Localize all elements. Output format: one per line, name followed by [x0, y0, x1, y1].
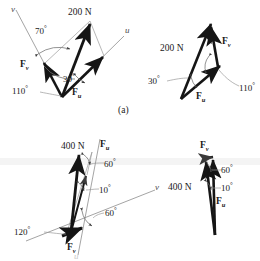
angle-label-30-top-left: 30° — [63, 73, 75, 84]
vector-label-fv-top-left: Fv — [20, 60, 29, 71]
axis-v-line-bl — [26, 190, 155, 241]
leader-110-tr — [219, 70, 239, 86]
vector-label-fu-top-right: Fu — [196, 92, 205, 103]
angle-arc-70-tl — [38, 47, 70, 54]
panel-bottom-left — [26, 139, 155, 255]
component-vector-fv-tl — [44, 63, 62, 97]
vector-label-fu-top-left: Fu — [72, 88, 81, 99]
force-magnitude-400n-bottom-left: 400 N — [61, 142, 85, 152]
angle-label-30-top-right: 30° — [148, 75, 160, 86]
figure-caption-a: (a) — [118, 106, 129, 116]
figure-vector-graphics — [0, 0, 260, 261]
axis-label-v-bottom-left: v — [155, 183, 159, 192]
parallelogram-guides-tl — [45, 21, 104, 63]
vector-label-fv-bottom-right: Fv — [200, 141, 209, 152]
vector-label-fu-bottom-right: Fu — [216, 197, 225, 208]
angle-label-10-bottom-left: 10° — [99, 184, 111, 195]
angle-label-10-bottom-right: 10° — [221, 182, 233, 193]
axis-label-u-top-left: u — [125, 26, 130, 35]
axis-label-v-top-left: v — [11, 5, 15, 14]
axis-label-u-bottom-left: u — [74, 252, 79, 261]
force-magnitude-400n-bottom-right: 400 N — [168, 183, 192, 193]
leader-10-bl — [86, 189, 99, 190]
angle-label-110-top-left: 110° — [12, 85, 28, 96]
force-magnitude-200n-top-left: 200 N — [68, 8, 92, 18]
leader-60-top-bl — [91, 163, 104, 164]
angle-label-60-bottom-right: 60° — [221, 164, 233, 175]
angle-arc-110-tr — [205, 56, 209, 73]
force-magnitude-200n-top-right: 200 N — [160, 44, 184, 54]
angle-label-120-bottom-left: 120° — [14, 226, 30, 237]
angle-label-60-top-bottom-left: 60° — [104, 158, 116, 169]
angle-arc-60-top-bl — [84, 155, 90, 165]
leader-110-tl — [40, 92, 61, 96]
leader-30-tr — [167, 78, 188, 81]
angle-label-60-base-bottom-left: 60° — [105, 207, 117, 218]
component-vector-fv-tr — [211, 27, 218, 67]
vector-label-fu-bottom-left: Fu — [100, 140, 109, 151]
panel-top-right — [167, 24, 239, 99]
vector-resolution-figure: v u 200 N 70° 110° 30° Fv Fu 200 N Fv Fu… — [0, 0, 260, 261]
component-vector-fv-br — [206, 157, 213, 158]
vector-label-fv-top-right: Fv — [222, 37, 231, 48]
angle-label-70-top-left: 70° — [35, 25, 47, 36]
angle-label-110-top-right: 110° — [239, 82, 255, 93]
